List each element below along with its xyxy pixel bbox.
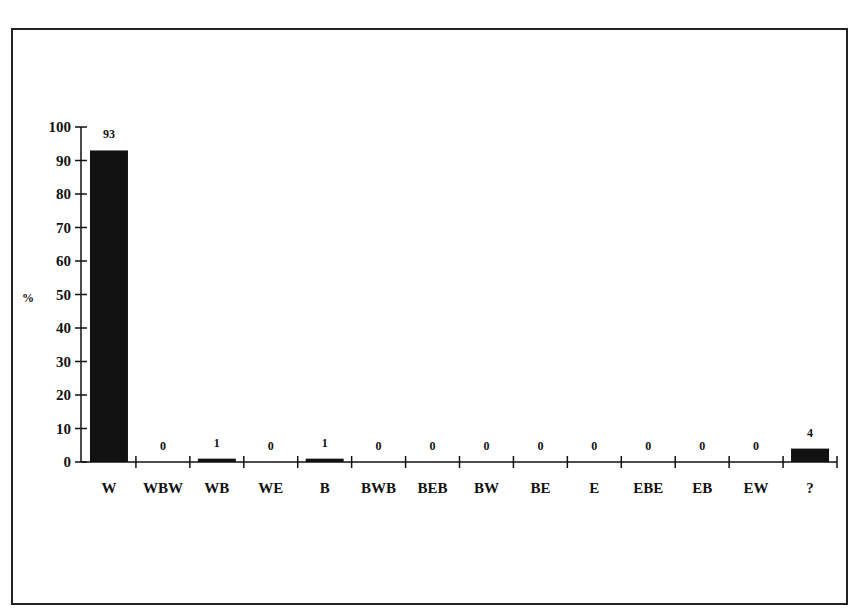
data-label: 0 [160,439,166,453]
y-tick-label: 100 [49,119,72,135]
data-label: 0 [645,439,651,453]
category-label: EB [692,480,712,496]
bar [90,150,128,462]
data-label: 0 [430,439,436,453]
data-label: 0 [268,439,274,453]
y-axis: 0102030405060708090100 [49,119,88,470]
data-label: 0 [753,439,759,453]
data-label: 0 [483,439,489,453]
data-labels: 930101000000004 [103,127,813,453]
category-labels: WWBWWBWEBBWBBEBBWBEEEBEEBEW? [101,480,813,496]
y-tick-label: 20 [56,387,71,403]
y-tick-label: 80 [56,186,71,202]
data-label: 0 [537,439,543,453]
data-label: 1 [322,436,328,450]
category-label: BE [530,480,550,496]
data-label: 0 [699,439,705,453]
category-label: BWB [361,480,396,496]
bar [198,459,236,462]
category-label: B [320,480,330,496]
bar [306,459,344,462]
y-tick-label: 40 [56,320,71,336]
data-label: 0 [591,439,597,453]
category-label: WB [204,480,229,496]
category-label: W [101,480,116,496]
y-tick-label: 90 [56,153,71,169]
bar-chart: % 0102030405060708090100 930101000000004… [0,0,854,615]
x-axis [81,456,837,468]
y-tick-label: 70 [56,220,71,236]
data-label: 93 [103,127,115,141]
bar [791,449,829,462]
y-tick-label: 30 [56,354,71,370]
data-label: 0 [376,439,382,453]
category-label: WE [258,480,283,496]
category-label: EBE [633,480,663,496]
category-label: WBW [143,480,183,496]
y-axis-label: % [22,291,34,305]
category-label: E [589,480,599,496]
y-tick-label: 0 [64,454,72,470]
data-label: 1 [214,436,220,450]
y-tick-label: 10 [56,421,71,437]
category-label: ? [806,480,814,496]
y-tick-label: 50 [56,287,71,303]
category-label: BW [474,480,499,496]
category-label: EW [744,480,769,496]
category-label: BEB [418,480,448,496]
data-label: 4 [807,426,813,440]
y-tick-label: 60 [56,253,71,269]
bars [90,150,829,462]
